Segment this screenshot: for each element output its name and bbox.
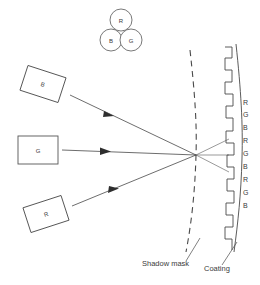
crt-shadow-mask-diagram: R B G B G R <box>0 0 260 285</box>
strip-label-6: R <box>243 176 248 183</box>
strip-label-2: B <box>243 124 248 131</box>
strip-label-4: G <box>243 150 248 157</box>
electron-gun-blue: B <box>20 65 66 102</box>
beam-green <box>62 150 196 155</box>
triad-dot-green-label: G <box>129 38 134 44</box>
electron-gun-green-label: G <box>36 148 41 154</box>
beam-spread-lower <box>196 155 229 172</box>
strip-label-1: G <box>243 111 248 118</box>
strip-label-5: B <box>243 163 248 170</box>
electron-beams <box>62 95 196 206</box>
shadow-mask-annotation: Shadow mask <box>142 238 200 268</box>
coating-label: Coating <box>204 264 230 273</box>
beam-blue <box>70 95 196 155</box>
beam-green-arrowhead <box>100 148 111 156</box>
coating-outer-curve <box>234 44 242 252</box>
electron-gun-red: R <box>23 195 69 232</box>
coating-stripes <box>225 47 234 250</box>
beam-red <box>72 155 196 206</box>
diagram-canvas: R B G B G R <box>0 0 260 285</box>
triad-dot-red-label: R <box>119 18 124 24</box>
electron-gun-green: G <box>18 136 58 164</box>
coating-leader-line <box>222 242 237 265</box>
triad-dot-blue-label: B <box>109 38 113 44</box>
shadow-mask-label: Shadow mask <box>142 259 189 268</box>
strip-label-0: R <box>243 99 248 106</box>
beams-after-mask <box>196 139 229 172</box>
strip-label-3: R <box>243 137 248 144</box>
phosphor-strip-labels: R G B R G B R G B <box>243 99 248 209</box>
beam-spread-upper <box>196 139 229 155</box>
strip-label-7: G <box>243 189 248 196</box>
phosphor-dot-triad: R B G <box>100 9 142 51</box>
strip-label-8: B <box>243 202 248 209</box>
beam-blue-arrowhead <box>103 111 114 117</box>
